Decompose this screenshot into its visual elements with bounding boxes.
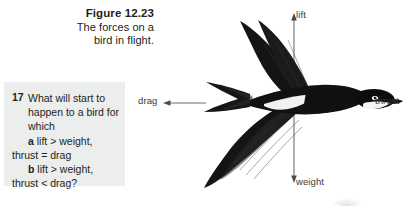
question-stem-line-2: happen to a bird for [28,105,120,119]
option-b-line-1: lift > weight, [37,163,93,175]
question-option-a: a lift > weight, [28,134,120,148]
question-box: 17 What will start to happen to a bird f… [4,82,125,186]
drag-arrow [163,100,206,106]
thrust-label: thrust [375,95,399,106]
option-b-line-2: thrust < drag? [12,176,120,190]
option-a-line-1: lift > weight, [37,135,93,147]
lift-label: lift [296,9,306,20]
bird-illustration [204,20,403,188]
question-number: 17 [12,91,24,103]
bird-force-diagram-svg [130,0,404,214]
scan-artifact [330,198,364,206]
weight-label: weight [296,176,324,187]
drag-label: drag [138,95,157,106]
option-a-line-2: thrust = drag [12,148,120,162]
question-stem-line-3: which [28,119,120,133]
question-content: 17 What will start to happen to a bird f… [12,91,120,190]
option-b-label: b [28,163,34,175]
question-text: What will start to happen to a bird for … [28,91,120,190]
option-a-label: a [28,135,34,147]
force-diagram: lift weight drag thrust [130,0,404,214]
question-stem-line-1: What will start to [28,91,120,105]
question-option-b: b lift > weight, [28,162,120,176]
